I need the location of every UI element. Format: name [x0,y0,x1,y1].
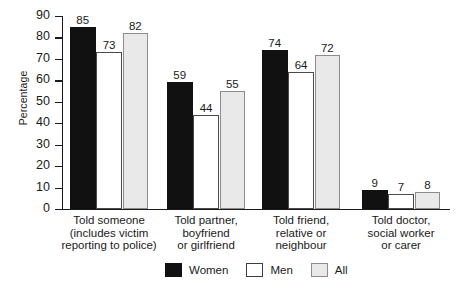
y-tick-label: 80 [20,29,50,43]
category-label-line: Told doctor, [341,214,461,227]
legend-item-all[interactable]: All [311,263,348,277]
category-label-line: social worker [341,227,461,240]
bar-value-label: 8 [424,179,430,191]
bar-value-label: 64 [295,59,308,71]
y-axis-line [62,16,63,209]
bar-men-0: 73 [96,52,122,209]
y-tick-20: 20 [55,166,62,167]
y-tick-label: 50 [20,94,50,108]
bar-women-0: 85 [70,27,96,209]
bar-women-2: 74 [262,50,288,209]
bar-chart: Percentage 9080706050403020100 857382594… [0,0,472,296]
y-tick-50: 50 [55,102,62,103]
bar-all-2: 72 [315,55,341,209]
bar-value-label: 85 [76,14,89,26]
legend-label: Women [189,264,228,276]
legend-swatch-women-icon [165,263,182,277]
y-tick-40: 40 [55,123,62,124]
y-tick-60: 60 [55,80,62,81]
bar-women-1: 59 [167,82,193,209]
legend-label: Men [270,264,292,276]
bar-value-label: 82 [129,20,142,32]
y-tick-70: 70 [55,59,62,60]
category-label-line: or carer [341,239,461,252]
legend-item-women[interactable]: Women [165,263,228,277]
legend-swatch-all-icon [311,263,328,277]
y-tick-90: 90 [55,16,62,17]
legend-label: All [335,264,348,276]
bar-women-3: 9 [362,190,388,209]
plot-area: 9080706050403020100 85738259445574647297… [62,16,450,209]
bar-value-label: 44 [200,102,213,114]
bar-men-1: 44 [193,115,219,209]
y-tick-10: 10 [55,188,62,189]
chart-legend: WomenMenAll [165,263,366,277]
bar-value-label: 59 [173,69,186,81]
category-label-3: Told doctor,social workeror carer [341,214,461,252]
y-tick-label: 30 [20,137,50,151]
bar-value-label: 73 [103,39,116,51]
legend-swatch-men-icon [246,263,263,277]
bar-men-3: 7 [388,194,414,209]
y-tick-30: 30 [55,145,62,146]
bar-value-label: 55 [226,78,239,90]
y-tick-label: 70 [20,51,50,65]
y-tick-label: 60 [20,72,50,86]
bar-all-1: 55 [220,91,246,209]
bar-all-0: 82 [123,33,149,209]
x-axis-line [62,209,450,210]
y-tick-label: 90 [20,8,50,22]
bar-value-label: 7 [398,181,404,193]
y-tick-label: 20 [20,158,50,172]
bar-all-3: 8 [415,192,441,209]
y-tick-0: 0 [55,209,62,210]
y-tick-label: 40 [20,115,50,129]
bar-men-2: 64 [288,72,314,209]
y-tick-80: 80 [55,37,62,38]
y-tick-label: 10 [20,180,50,194]
y-tick-label: 0 [20,201,50,215]
bar-value-label: 9 [372,177,378,189]
bar-value-label: 72 [321,42,334,54]
legend-item-men[interactable]: Men [246,263,292,277]
bar-value-label: 74 [268,37,281,49]
